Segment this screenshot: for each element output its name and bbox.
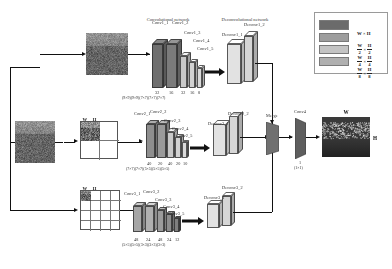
legend-swatch-1 xyxy=(319,20,349,30)
slab-front xyxy=(244,36,253,82)
fatarrow-branch-1 xyxy=(205,62,225,70)
label-conv1-3: Conv1_3 xyxy=(184,31,200,36)
fatarrow-branch-2 xyxy=(190,138,210,146)
deconv-block-1-2 xyxy=(244,31,258,82)
label-conv3-2: Conv3_2 xyxy=(143,190,159,195)
label-conv1-4: Conv1_4 xyxy=(193,39,209,44)
trunk-branch-bottom xyxy=(10,210,40,211)
channels-1-3: 32 xyxy=(181,90,186,95)
grid-cell xyxy=(101,221,111,231)
grid-cell xyxy=(81,221,91,231)
slab-front xyxy=(229,116,238,154)
channels-1-1: 32 xyxy=(155,90,160,95)
slab-front xyxy=(157,124,166,158)
channels-3-3: 48 xyxy=(158,237,163,242)
label-deconv2-1: Deconv2_1 xyxy=(208,122,229,127)
label-conv2-2: Conv2_2 xyxy=(150,110,166,115)
source-image xyxy=(15,121,55,163)
slab-front xyxy=(213,124,226,156)
channels-2-3: 40 xyxy=(168,161,173,166)
slab-side xyxy=(179,216,181,232)
grid-cell xyxy=(81,141,100,160)
label-conv3-3: Conv3_3 xyxy=(155,198,171,203)
slab-front xyxy=(222,196,231,226)
legend-swatch-4 xyxy=(319,57,349,66)
line-to-scale-3 xyxy=(40,210,74,211)
slab-front xyxy=(152,44,163,88)
grid-cell xyxy=(91,191,101,201)
arrow-to-scale-3 xyxy=(74,208,78,212)
arrow-scale1-conv xyxy=(146,52,150,56)
input-scale-1 xyxy=(86,33,128,75)
slab-front xyxy=(175,137,181,158)
slab-front xyxy=(207,204,219,228)
label-conv1-1: Conv1_1 xyxy=(152,21,168,26)
channels-2-5: 10 xyxy=(183,161,188,166)
label-conv3-1: Conv3_1 xyxy=(124,192,140,197)
grid-cell xyxy=(91,211,101,221)
label-deconv2-2: Deconv2_2 xyxy=(228,112,249,117)
label-conv1-2: Conv1_2 xyxy=(172,21,188,26)
arrow-conv4-output xyxy=(316,135,320,139)
grid-cell xyxy=(101,211,111,221)
slab-side xyxy=(253,31,258,82)
channels-2-2: 20 xyxy=(158,161,163,166)
legend-label-4: W8×H8 xyxy=(357,57,372,79)
grid-cell xyxy=(91,221,101,231)
slab-side xyxy=(238,112,243,155)
channels-2-1: 40 xyxy=(147,161,152,166)
channels-3-5: 12 xyxy=(175,237,180,242)
channels-3-4: 24 xyxy=(167,237,172,242)
slab-front xyxy=(227,44,241,84)
channels-1-2: 16 xyxy=(169,90,174,95)
label-conv2-1: Conv2_1 xyxy=(134,112,150,117)
slab-side xyxy=(231,192,235,226)
trunk-branch-mid xyxy=(10,142,15,143)
line-branch1-to-merge xyxy=(255,63,273,64)
channels-2-4: 20 xyxy=(176,161,181,166)
label-conv2-4: Conv2_4 xyxy=(172,127,188,132)
label-deconv3-2: Deconv3_2 xyxy=(222,186,243,191)
deconv-block-2-2 xyxy=(229,112,243,155)
trunk-vertical xyxy=(10,67,11,211)
input-scale-2 xyxy=(80,121,118,159)
slab-front xyxy=(166,44,177,88)
label-conv3-4: Conv3_4 xyxy=(163,205,179,210)
conv4-kernel: (1×1) xyxy=(294,166,303,170)
grid-cell xyxy=(101,191,111,201)
slab-front xyxy=(167,132,174,158)
fatarrow-branch-3 xyxy=(182,211,204,219)
slab-front xyxy=(133,206,142,232)
conv-block-1-5 xyxy=(197,65,205,88)
channels-3-1: 48 xyxy=(134,237,139,242)
conv4-block xyxy=(295,118,306,159)
label-deconv1-1: Deconv1_1 xyxy=(222,33,243,38)
output-label-h: H xyxy=(373,135,377,141)
channels-1-4: 16 xyxy=(190,90,195,95)
grid-cell xyxy=(111,221,121,231)
grid-cell xyxy=(81,201,91,211)
legend-swatch-2 xyxy=(319,33,349,42)
conv-block-2-5 xyxy=(182,140,189,158)
line-branch3-to-merge xyxy=(233,212,272,213)
arrow-scale2-conv xyxy=(139,139,143,143)
slab-front xyxy=(146,124,155,158)
slab-side xyxy=(187,140,189,158)
slab-front xyxy=(180,56,187,88)
merge-block xyxy=(266,122,279,155)
slab-front xyxy=(145,206,154,232)
line-branch3-up xyxy=(272,152,273,212)
trunk-branch-top xyxy=(10,67,40,68)
line-to-scale-1 xyxy=(40,54,82,55)
label-merge: Merge xyxy=(266,114,278,119)
legend-swatch-3 xyxy=(319,45,349,54)
grid-cell xyxy=(111,191,121,201)
label-conv2-3: Conv2_3 xyxy=(164,119,180,124)
grid-cell xyxy=(91,201,101,211)
deconv-block-3-1 xyxy=(207,200,223,228)
label-conv4: Conv4 xyxy=(294,110,306,115)
input-scale-3 xyxy=(80,190,120,230)
output-label-w: W xyxy=(343,109,348,115)
conv4-channels: 1 xyxy=(299,160,301,165)
slab-front xyxy=(157,210,164,232)
